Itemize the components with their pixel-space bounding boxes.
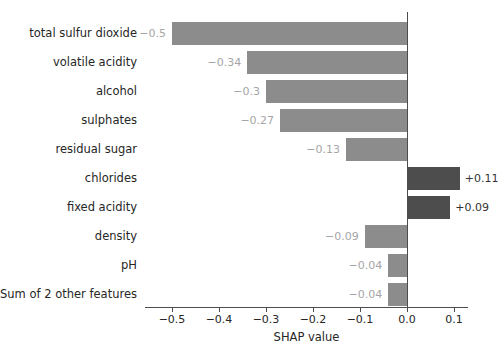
bar-value-label: −0.04 — [322, 254, 382, 277]
bar-value-label: −0.5 — [106, 22, 166, 45]
x-axis-tick-label: 0.1 — [424, 313, 484, 326]
bar — [266, 80, 407, 103]
x-axis-title: SHAP value — [145, 330, 468, 344]
x-axis-tick-mark — [360, 308, 361, 312]
bar — [172, 22, 407, 45]
bar-value-label: −0.13 — [280, 138, 340, 161]
bar-value-label: +0.09 — [455, 196, 489, 219]
x-axis-spine — [145, 307, 468, 308]
bar — [408, 167, 460, 190]
y-axis-tick-label: sulphates — [0, 109, 137, 132]
y-axis-tick-label: pH — [0, 254, 137, 277]
x-axis-tick-mark — [407, 308, 408, 312]
bar — [247, 51, 407, 74]
y-axis-tick-label: alcohol — [0, 80, 137, 103]
zero-reference-line — [407, 12, 408, 307]
bar-value-label: −0.34 — [181, 51, 241, 74]
y-axis-tick-label: residual sugar — [0, 138, 137, 161]
x-axis-tick-mark — [219, 308, 220, 312]
x-axis-tick-mark — [266, 308, 267, 312]
plot-area: total sulfur dioxide−0.5volatile acidity… — [0, 0, 500, 351]
y-axis-tick-label: Sum of 2 other features — [0, 283, 137, 306]
x-axis-tick-mark — [313, 308, 314, 312]
bar — [388, 283, 407, 306]
bar — [388, 254, 407, 277]
shap-bar-chart-figure: total sulfur dioxide−0.5volatile acidity… — [0, 0, 500, 351]
bar-value-label: −0.09 — [299, 225, 359, 248]
bar — [280, 109, 407, 132]
bar-value-label: −0.3 — [200, 80, 260, 103]
bar-value-label: −0.04 — [322, 283, 382, 306]
x-axis-tick-mark — [172, 308, 173, 312]
y-axis-tick-label: density — [0, 225, 137, 248]
bar — [365, 225, 407, 248]
bar-value-label: −0.27 — [214, 109, 274, 132]
x-axis-tick-mark — [454, 308, 455, 312]
bar — [408, 196, 450, 219]
y-axis-tick-label: volatile acidity — [0, 51, 137, 74]
y-axis-tick-label: fixed acidity — [0, 196, 137, 219]
bar — [346, 138, 407, 161]
bar-value-label: +0.11 — [465, 167, 499, 190]
y-axis-tick-label: chlorides — [0, 167, 137, 190]
